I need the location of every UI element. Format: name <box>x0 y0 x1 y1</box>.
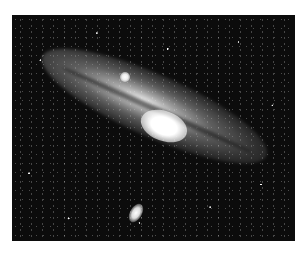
galaxy-photograph <box>12 15 295 241</box>
satellite-galaxy-upper <box>120 72 130 82</box>
